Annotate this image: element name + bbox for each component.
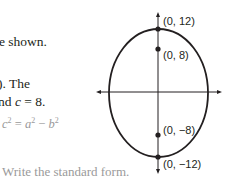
x-axis-left-arrow-icon	[96, 90, 101, 94]
vertex-bottom-point	[155, 154, 160, 159]
focus-bottom-point	[155, 132, 160, 137]
y-axis-down-arrow-icon	[156, 169, 160, 174]
x-axis-right-arrow-icon	[217, 90, 222, 94]
label-vertex-bottom: (0, −12)	[163, 158, 201, 170]
ellipse-diagram: (0, 12) (0, 8) (0, −8) (0, −12)	[0, 0, 230, 185]
focus-top-point	[155, 46, 160, 51]
label-focus-top: (0, 8)	[163, 49, 189, 61]
vertex-top-point	[155, 26, 160, 31]
label-vertex-top: (0, 12)	[163, 15, 195, 27]
label-focus-bottom: (0, −8)	[163, 124, 195, 136]
y-axis-up-arrow-icon	[156, 12, 160, 17]
